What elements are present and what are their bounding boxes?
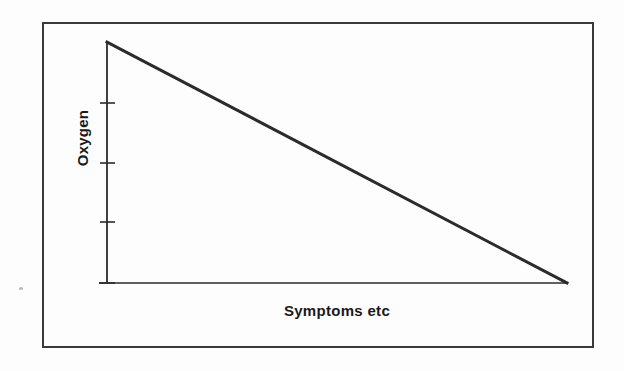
scan-artifact-speck [19,287,23,290]
y-axis-title: Oxygen [74,78,91,198]
data-line-oxygen [107,42,567,283]
page-background: Oxygen Symptoms etc [0,0,624,371]
x-axis-title: Symptoms etc [107,302,567,319]
